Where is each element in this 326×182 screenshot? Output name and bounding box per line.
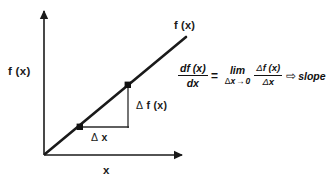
difference-quotient-numerator: Δf (x) <box>254 63 282 75</box>
difference-quotient-fraction: Δf (x) Δx <box>254 63 282 88</box>
delta-x-variable: x <box>98 131 107 143</box>
y-axis-label: f (x) <box>8 66 31 78</box>
curve-label: f (x) <box>174 20 195 31</box>
derivative-denominator: dx <box>178 75 208 89</box>
difference-quotient-denominator: Δx <box>254 75 282 88</box>
limit-arrow-icon: → <box>235 76 246 86</box>
delta-f-variable: f (x) <box>143 99 167 111</box>
secant-point-lower <box>77 124 83 130</box>
function-line <box>45 37 186 154</box>
derivative-numerator: df (x) <box>178 62 208 75</box>
slope-label: slope <box>298 70 325 82</box>
x-axis-label: x <box>103 165 109 177</box>
secant-point-upper <box>125 82 131 88</box>
figure-canvas: f (x) x f (x) Δ x Δ f (x) df (x) dx = li… <box>0 0 326 182</box>
difference-quotient-denominator-variable: x <box>269 76 274 87</box>
delta-x-label: Δ x <box>91 132 108 143</box>
limit-operator: lim Δx→0 <box>225 65 251 86</box>
limit-condition: Δx→0 <box>225 77 251 86</box>
difference-quotient-numerator-variable: f (x) <box>263 62 280 73</box>
derivative-equation: df (x) dx = lim Δx→0 Δf (x) Δx ⇨ slope <box>178 62 326 89</box>
delta-f-label: Δ f (x) <box>136 100 167 111</box>
limit-target: 0 <box>246 76 251 86</box>
derivative-diagram <box>0 0 326 182</box>
equals-sign: = <box>211 69 218 83</box>
derivative-fraction: df (x) dx <box>178 62 208 89</box>
result-arrow-icon: ⇨ <box>286 69 296 83</box>
